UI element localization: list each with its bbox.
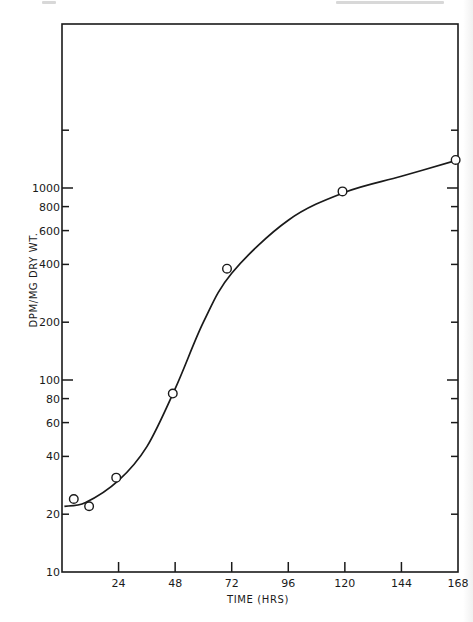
plot-border	[62, 24, 458, 572]
y-tick-label: 800	[39, 201, 60, 214]
data-point-marker	[85, 502, 94, 511]
x-tick-label: 24	[112, 577, 126, 590]
data-point-marker	[112, 473, 121, 482]
data-points	[69, 156, 459, 511]
y-tick-label: 400	[39, 258, 60, 271]
x-tick-label: 168	[448, 577, 469, 590]
curve-line	[64, 160, 458, 506]
y-tick-label: 100	[39, 374, 60, 387]
y-axis-ticks: 10204060801002004006008001000	[32, 130, 458, 579]
data-point-marker	[451, 156, 460, 165]
x-tick-label: 96	[281, 577, 295, 590]
data-point-marker	[223, 264, 232, 273]
y-tick-label: 200	[39, 316, 60, 329]
y-tick-label: 20	[46, 508, 60, 521]
fitted-curve	[64, 160, 458, 506]
y-tick-label: 40	[46, 450, 60, 463]
y-tick-label: 10	[46, 566, 60, 579]
chart: 10204060801002004006008001000 2448729612…	[0, 0, 473, 622]
data-point-marker	[338, 187, 347, 196]
y-tick-label: 60	[46, 417, 60, 430]
y-tick-label: 1000	[32, 182, 60, 195]
x-tick-label: 144	[391, 577, 412, 590]
x-axis-title: TIME (HRS)	[226, 594, 289, 605]
plot-frame	[62, 24, 458, 572]
data-point-marker	[69, 495, 78, 504]
y-tick-label: 600	[39, 225, 60, 238]
x-axis-ticks: 24487296120144168	[112, 562, 469, 590]
y-axis-title: DPM/MG DRY WT.	[28, 233, 39, 328]
x-tick-label: 120	[334, 577, 355, 590]
x-tick-label: 72	[225, 577, 239, 590]
y-tick-label: 80	[46, 393, 60, 406]
x-tick-label: 48	[168, 577, 182, 590]
data-point-marker	[168, 389, 177, 398]
